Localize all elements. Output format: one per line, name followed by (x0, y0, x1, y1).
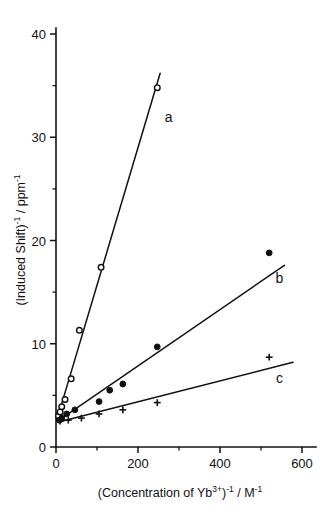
series-b-point-3 (72, 407, 78, 413)
series-a (56, 73, 160, 420)
y-ticklabel-10: 10 (32, 337, 46, 352)
curve-label-group: abc (165, 109, 284, 386)
series-b-point-7 (154, 344, 160, 350)
series-b-line (58, 265, 285, 421)
series-group (56, 73, 293, 424)
series-a-point-4 (68, 376, 74, 382)
curve-label-c: c (276, 370, 283, 386)
x-ticklabel-600: 600 (291, 456, 313, 471)
curve-label-b: b (276, 270, 284, 286)
series-a-line (57, 73, 160, 420)
series-a-point-6 (98, 265, 104, 271)
y-ticklabel-40: 40 (32, 27, 46, 42)
y-ticklabel-30: 30 (32, 130, 46, 145)
series-b-point-2 (64, 411, 70, 417)
series-c (57, 354, 293, 425)
series-b (56, 250, 284, 423)
series-c-point-5 (154, 399, 161, 406)
y-ticklabel-20: 20 (32, 234, 46, 249)
curve-label-a: a (165, 109, 173, 125)
series-b-point-8 (266, 250, 272, 256)
scatter-line-plot: 0102030400200400600 abc (Concentration o… (0, 0, 332, 523)
series-b-point-5 (107, 387, 113, 393)
axis-group: 0102030400200400600 (32, 27, 316, 471)
x-ticklabel-0: 0 (52, 456, 59, 471)
x-ticklabel-200: 200 (127, 456, 149, 471)
series-c-point-1 (65, 417, 72, 424)
x-axis-title: (Concentration of Yb3+)-1 / M-1 (98, 484, 263, 500)
series-c-point-6 (266, 354, 273, 361)
y-ticklabel-0: 0 (39, 440, 46, 455)
series-c-line (58, 362, 293, 422)
series-a-point-7 (154, 85, 160, 91)
series-b-point-6 (120, 381, 126, 387)
figure-container: 0102030400200400600 abc (Concentration o… (0, 0, 332, 523)
series-a-point-5 (77, 328, 83, 334)
series-b-point-4 (96, 399, 102, 405)
x-ticklabel-400: 400 (209, 456, 231, 471)
series-a-point-2 (59, 404, 65, 410)
y-axis-title: (Induced Shift)-1 / ppm-1 (12, 174, 28, 305)
series-c-point-4 (119, 406, 126, 413)
series-a-point-3 (62, 397, 68, 403)
axis-title-group: (Concentration of Yb3+)-1 / M-1(Induced … (12, 174, 262, 500)
